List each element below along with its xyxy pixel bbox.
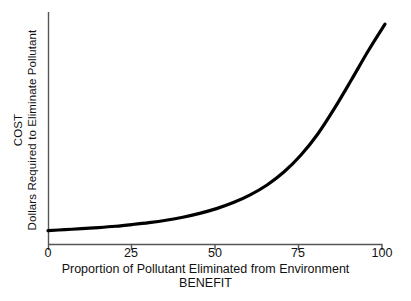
cost-benefit-chart: COST Dollars Required to Eliminate Pollu… <box>0 0 411 301</box>
x-tick-label-75: 75 <box>278 247 318 261</box>
x-axis-subtitle: BENEFIT <box>0 276 411 292</box>
x-tick-label-0: 0 <box>28 247 68 261</box>
cost-curve <box>48 24 385 230</box>
x-tick-label-50: 50 <box>195 247 235 261</box>
x-tick-label-25: 25 <box>111 247 151 261</box>
x-tick-label-100: 100 <box>362 247 402 261</box>
